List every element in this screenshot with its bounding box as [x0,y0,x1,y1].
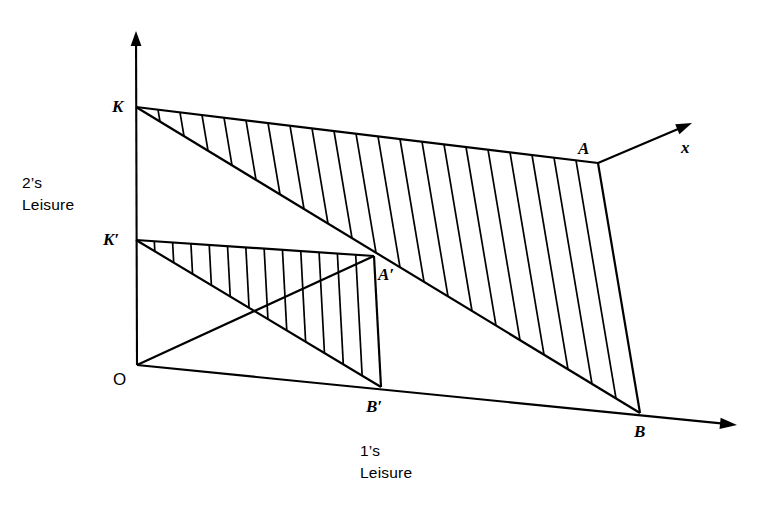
hatch-line [264,249,268,320]
hatch-group-outer-region [158,110,616,399]
hatch-line [334,131,352,238]
segment-a-to-b [598,163,640,413]
point-label-k-prime: K′ [103,231,119,248]
horizontal-axis-caption: 1’s Leisure [360,440,412,485]
segment-k-to-b-diagonal [136,107,640,413]
hatch-line [576,160,616,398]
diagram-outline [131,31,737,429]
point-label-origin: O [113,371,126,388]
x-ray-arrow-icon [675,123,692,134]
vertical-axis-caption: 2’s Leisure [22,172,74,217]
point-label-a-prime: A′ [378,266,394,283]
hatch-line [400,139,424,282]
x-ray-line [598,127,683,163]
hatch-line [282,250,286,331]
hatch-line [532,155,568,369]
hatch-line [202,115,208,151]
segment-origin-to-aprime-ray [137,256,374,365]
segment-kprime-to-aprime [136,240,374,256]
point-label-b-prime: B′ [366,398,382,415]
vertical-axis-line [136,40,137,365]
hatch-line [209,245,211,285]
figure-root: O K K′ A A′ B B′ x 2’s Leisure 1’s Leisu… [0,0,765,518]
hatch-line [319,252,324,353]
axis-label-x: x [681,139,690,156]
hatch-line [290,126,304,209]
point-label-a: A [578,140,589,157]
hatch-line [356,255,362,376]
hatch-line [444,144,472,311]
segment-kprime-to-bprime-diagonal [136,240,381,387]
hatch-line [301,251,306,342]
hatch-line [173,242,174,262]
hatch-line [554,158,592,384]
hatch-line [378,136,400,267]
hatch-line [246,120,256,180]
hatch-line [268,123,280,194]
hatch-line [180,112,184,136]
hatch-line [510,152,544,354]
horizontal-axis-arrow-icon [720,418,737,429]
hatch-line [356,134,376,253]
hatch-line [224,118,232,166]
hatch-line [191,244,193,274]
hatch-line [422,142,448,297]
hatch-line [246,247,249,307]
hatch-line [228,246,231,296]
point-label-b: B [634,423,645,440]
hatch-line [312,128,328,223]
vertical-axis-arrow-icon [131,31,142,46]
point-label-k: K [112,98,123,115]
